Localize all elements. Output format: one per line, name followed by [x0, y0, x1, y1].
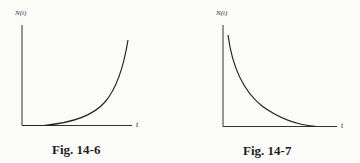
fig-14-6-ylabel: N(t) [15, 9, 26, 17]
fig-14-7-axes [223, 25, 337, 127]
figures-canvas [0, 0, 360, 163]
fig-14-7-ylabel: N(t) [216, 9, 227, 17]
fig-14-7-xlabel: t [341, 121, 343, 130]
fig-14-7-decay-curve [228, 35, 315, 126]
fig-14-6-axes [22, 25, 132, 126]
fig-14-6-xlabel: t [136, 120, 138, 129]
fig-14-6-caption: Fig. 14-6 [52, 142, 100, 158]
fig-14-7-caption: Fig. 14-7 [243, 143, 291, 159]
fig-14-6-growth-curve [22, 40, 128, 126]
